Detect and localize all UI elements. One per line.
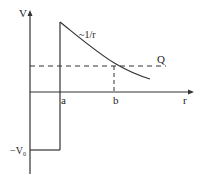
x-axis-label: r — [183, 94, 187, 106]
curve-label: ~1/r — [79, 29, 96, 40]
y-axis-label: V — [19, 7, 27, 19]
coulomb-curve — [60, 22, 150, 79]
potential-diagram: V r ~1/r Q a b −V0 — [0, 0, 204, 187]
point-b-label: b — [113, 94, 119, 106]
point-a-label: a — [61, 94, 66, 106]
x-axis-arrow-icon — [188, 90, 194, 95]
well-depth-label: −V0 — [10, 145, 26, 157]
y-axis-arrow-icon — [28, 10, 33, 16]
energy-label: Q — [157, 53, 165, 65]
